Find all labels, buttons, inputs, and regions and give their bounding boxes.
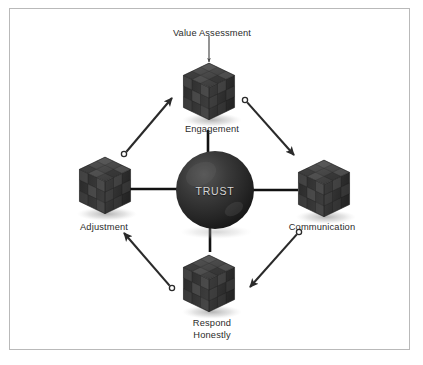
node-label-respond-honestly-line1: Respond: [193, 318, 231, 330]
arrow-respond-to-adjustment: [124, 233, 175, 291]
node-label-adjustment: Adjustment: [80, 222, 128, 234]
node-cube-communication[interactable]: [298, 160, 349, 217]
center-label: TRUST: [196, 185, 235, 197]
node-cube-adjustment[interactable]: [79, 157, 130, 214]
node-label-respond-honestly-line2: Honestly: [193, 330, 230, 342]
arrow-adjustment-to-engagement: [121, 98, 172, 157]
arrow-communication-to-respond: [250, 229, 302, 287]
diagram-root: TRUST Value Assessment Engagement Commun…: [0, 0, 423, 365]
node-cube-engagement[interactable]: [183, 63, 234, 120]
value-assessment-label: Value Assessment: [173, 28, 251, 40]
node-cube-respond-honestly[interactable]: [183, 255, 234, 312]
diagram-canvas: [0, 0, 423, 365]
node-label-engagement: Engagement: [185, 124, 239, 136]
arrow-engagement-to-communication: [242, 97, 294, 155]
node-label-communication: Communication: [289, 222, 356, 234]
